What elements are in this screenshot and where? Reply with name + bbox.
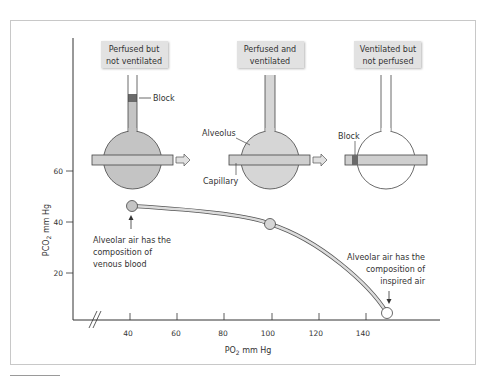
arrow-down-icon (387, 299, 392, 304)
x-tick-140: 140 (356, 329, 371, 338)
alveolus-perfused-not-ventilated: Block (92, 75, 175, 189)
svg-text:not ventilated: not ventilated (106, 57, 162, 66)
svg-text:inspired air: inspired air (380, 277, 426, 286)
airway-block-icon (128, 94, 137, 102)
y-axis-label: PCO2 mm Hg (42, 204, 52, 256)
y-tick-40: 40 (53, 218, 63, 227)
x-tick-40: 40 (123, 329, 133, 338)
alveolus-ventilated-not-perfused: Block (338, 75, 427, 189)
svg-text:Ventilated but: Ventilated but (360, 45, 416, 54)
y-axis: 60 40 20 PCO2 mm Hg (42, 38, 73, 320)
x-tick-120: 120 (309, 329, 324, 338)
svg-text:Alveolar air has the: Alveolar air has the (347, 253, 425, 262)
data-point-normal (265, 219, 276, 230)
svg-text:not perfused: not perfused (363, 57, 414, 66)
x-axis-label: PO2 mm Hg (225, 346, 272, 356)
capillary (229, 155, 310, 165)
state-box-ventilated-not-perfused: Ventilated but not perfused (354, 41, 421, 68)
y-tick-60: 60 (53, 167, 63, 176)
svg-text:composition of: composition of (93, 248, 152, 257)
flow-arrow-icon (313, 154, 327, 166)
footer-rule (10, 375, 60, 376)
x-tick-100: 100 (261, 329, 276, 338)
state-box-perfused-and-ventilated: Perfused and ventilated (237, 41, 304, 68)
y-tick-20: 20 (53, 269, 63, 278)
data-point-inspired (382, 308, 393, 319)
block-label: Block (338, 132, 360, 141)
annotation-venous-blood: Alveolar air has the composition of veno… (93, 215, 171, 269)
arrow-up-icon (129, 215, 134, 220)
flow-arrow-icon (176, 154, 190, 166)
alveolus-label: Alveolus (202, 129, 236, 138)
svg-text:Perfused but: Perfused but (109, 45, 160, 54)
capillary-label: Capillary (203, 177, 238, 186)
alveolus-perfused-and-ventilated: Alveolus Capillary (202, 75, 310, 189)
svg-text:venous blood: venous blood (93, 260, 147, 269)
x-tick-80: 80 (218, 329, 228, 338)
x-tick-60: 60 (171, 329, 181, 338)
svg-text:Alveolar air has the: Alveolar air has the (93, 236, 171, 245)
state-box-perfused-not-ventilated: Perfused but not ventilated (101, 41, 168, 68)
block-label: Block (153, 94, 175, 103)
svg-text:Perfused and: Perfused and (244, 45, 296, 54)
data-point-venous (127, 201, 138, 212)
ventilation-perfusion-diagram: 60 40 20 PCO2 mm Hg 40 60 80 100 120 140… (0, 0, 483, 377)
svg-text:composition of: composition of (366, 265, 425, 274)
capillary-block-icon (352, 155, 358, 165)
svg-text:ventilated: ventilated (250, 57, 290, 66)
capillary (92, 155, 173, 165)
